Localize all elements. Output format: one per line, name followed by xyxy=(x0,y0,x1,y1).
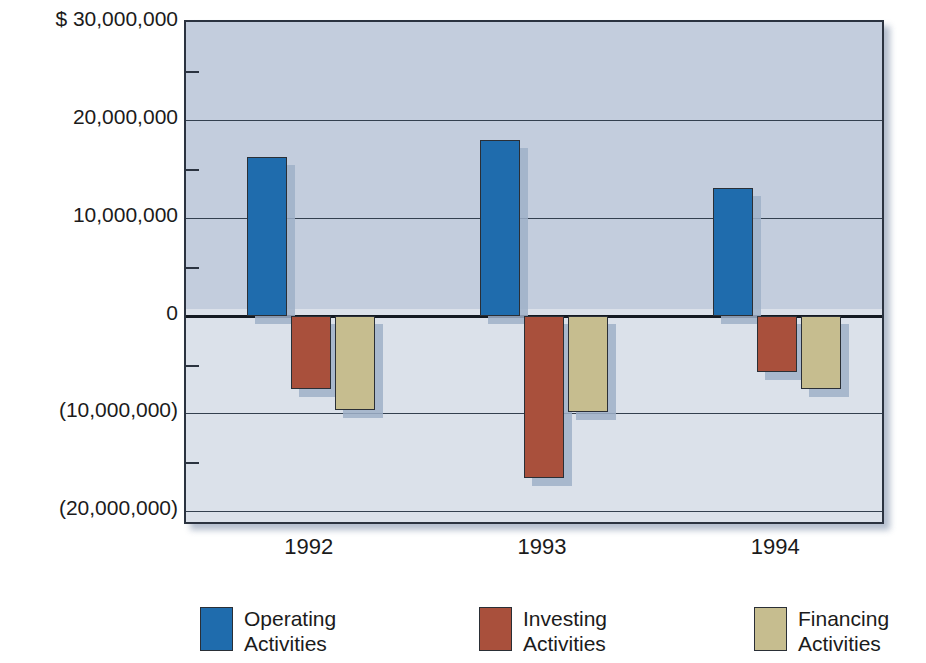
legend-swatch-financing xyxy=(754,607,787,651)
bar-1993-investing-activities xyxy=(524,316,564,478)
bar-1993-operating-activities xyxy=(480,140,520,315)
y-axis-tick-label: 0 xyxy=(0,301,178,325)
legend-label-financing: FinancingActivities xyxy=(798,606,889,656)
legend-label-line2: Activities xyxy=(798,631,889,656)
minor-tick--15000000 xyxy=(186,462,199,464)
bar-1992-operating-activities xyxy=(247,157,287,316)
legend-item-operating: OperatingActivities xyxy=(200,606,336,656)
bar-1994-investing-activities xyxy=(757,316,797,373)
legend-label-investing: InvestingActivities xyxy=(523,606,607,656)
legend-item-investing: InvestingActivities xyxy=(479,606,607,656)
legend-label-operating: OperatingActivities xyxy=(244,606,336,656)
bar-1994-operating-activities xyxy=(713,188,753,315)
legend-label-line2: Activities xyxy=(523,631,607,656)
y-axis-tick-label: 10,000,000 xyxy=(0,203,178,227)
gridline-20000000 xyxy=(186,120,882,121)
gridline--20000000 xyxy=(186,511,882,512)
legend-label-line1: Investing xyxy=(523,606,607,631)
minor-tick--5000000 xyxy=(186,365,199,367)
minor-tick-15000000 xyxy=(186,169,199,171)
legend-label-line1: Operating xyxy=(244,606,336,631)
y-axis-tick-label: 20,000,000 xyxy=(0,105,178,129)
minor-tick-25000000 xyxy=(186,71,199,73)
bar-1993-financing-activities xyxy=(568,316,608,413)
cash-flow-bar-chart: $ 30,000,00020,000,00010,000,0000(10,000… xyxy=(0,0,926,663)
bar-1992-investing-activities xyxy=(291,316,331,389)
legend-swatch-investing xyxy=(479,607,512,651)
x-axis-label-1992: 1992 xyxy=(249,534,369,560)
y-axis-tick-label: (10,000,000) xyxy=(0,398,178,422)
minor-tick-5000000 xyxy=(186,267,199,269)
legend-label-line2: Activities xyxy=(244,631,336,656)
x-axis-label-1994: 1994 xyxy=(715,534,835,560)
bar-1994-financing-activities xyxy=(801,316,841,389)
legend-item-financing: FinancingActivities xyxy=(754,606,889,656)
x-axis-label-1993: 1993 xyxy=(482,534,602,560)
bar-1992-financing-activities xyxy=(335,316,375,410)
legend-swatch-operating xyxy=(200,607,233,651)
y-axis-tick-label: $ 30,000,000 xyxy=(0,7,178,31)
legend-label-line1: Financing xyxy=(798,606,889,631)
chart-legend: OperatingActivitiesInvestingActivitiesFi… xyxy=(184,600,884,660)
plot-area xyxy=(184,20,884,524)
y-axis-tick-label: (20,000,000) xyxy=(0,496,178,520)
